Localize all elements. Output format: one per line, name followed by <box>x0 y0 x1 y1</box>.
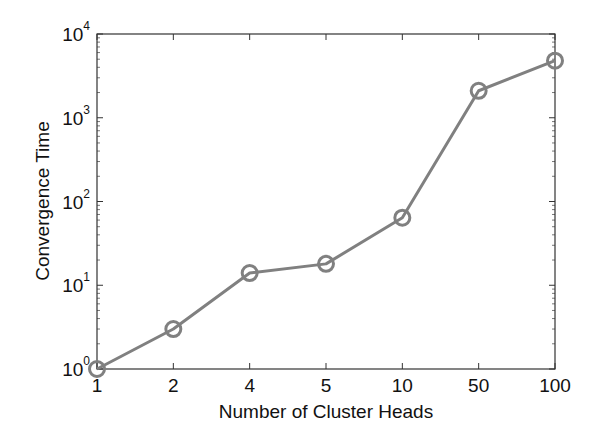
data-series <box>90 53 563 376</box>
y-axis-title: Convergence Time <box>32 121 53 280</box>
x-tick-labels: 12451050100 <box>92 375 571 396</box>
y-minor-ticks <box>97 38 555 344</box>
y-tick-label: 101 <box>62 270 90 296</box>
x-tick-label: 50 <box>468 375 489 396</box>
y-tick-label: 103 <box>62 103 90 129</box>
x-tick-label: 5 <box>321 375 332 396</box>
x-tick-label: 100 <box>539 375 571 396</box>
y-tick-label: 104 <box>62 19 90 45</box>
convergence-time-chart: 12451050100 100101102103104 Number of Cl… <box>0 0 605 443</box>
x-tick-label: 2 <box>168 375 179 396</box>
x-tick-label: 10 <box>392 375 413 396</box>
series-line <box>97 61 555 369</box>
x-tick-label: 4 <box>244 375 255 396</box>
y-tick-label: 100 <box>62 354 90 380</box>
axes-frame <box>97 34 555 369</box>
y-tick-labels: 100101102103104 <box>62 19 90 380</box>
axis-ticks <box>97 34 555 369</box>
x-axis-title: Number of Cluster Heads <box>219 401 433 422</box>
x-tick-label: 1 <box>92 375 103 396</box>
y-tick-label: 102 <box>62 187 90 213</box>
